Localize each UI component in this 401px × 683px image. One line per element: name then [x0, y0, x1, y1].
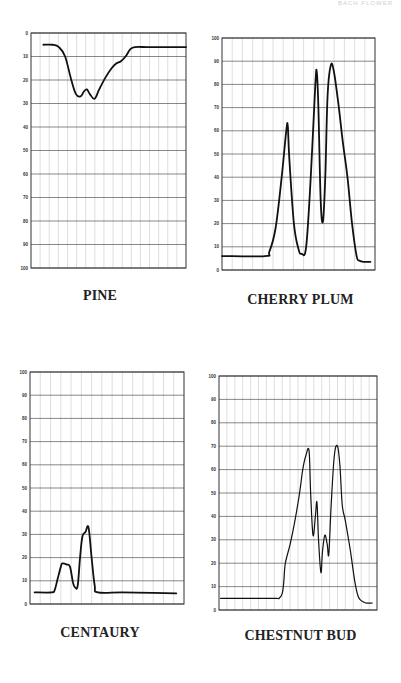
y-tick-label: 80 — [214, 82, 220, 87]
chart-title-cherry-plum: CHERRY PLUM — [200, 292, 401, 308]
y-tick-label: 90 — [23, 242, 29, 247]
y-tick-label: 40 — [22, 509, 28, 514]
y-tick-label: 60 — [211, 467, 217, 472]
y-tick-label: 70 — [211, 444, 217, 449]
data-line — [222, 64, 370, 262]
y-tick-label: 100 — [208, 374, 216, 379]
y-tick-label: 60 — [22, 462, 28, 467]
y-tick-label: 10 — [211, 584, 217, 589]
y-tick-label: 10 — [23, 54, 29, 59]
y-tick-label: 70 — [214, 105, 220, 110]
y-tick-label: 10 — [214, 244, 220, 249]
y-tick-label: 100 — [20, 266, 28, 271]
y-tick-label: 40 — [23, 125, 29, 130]
y-tick-label: 20 — [22, 555, 28, 560]
y-tick-label: 0 — [24, 602, 27, 607]
y-tick-label: 50 — [211, 491, 217, 496]
chart-title-pine: PINE — [0, 288, 200, 304]
y-tick-label: 0 — [213, 608, 216, 613]
y-tick-label: 90 — [22, 393, 28, 398]
data-line — [35, 526, 177, 593]
y-tick-label: 100 — [19, 370, 27, 375]
y-tick-label: 60 — [214, 128, 220, 133]
chart-chestnut-bud: 0102030405060708090100 — [200, 340, 401, 620]
y-tick-label: 100 — [211, 36, 219, 41]
y-tick-label: 90 — [211, 397, 217, 402]
y-tick-label: 50 — [214, 152, 220, 157]
chart-title-centaury: CENTAURY — [0, 625, 200, 641]
y-tick-label: 70 — [23, 195, 29, 200]
y-tick-label: 20 — [211, 561, 217, 566]
y-tick-label: 40 — [214, 175, 220, 180]
y-tick-label: 0 — [25, 31, 28, 36]
y-tick-label: 80 — [211, 420, 217, 425]
chart-panel-centaury: 0102030405060708090100 CENTAURY — [0, 340, 200, 670]
y-tick-label: 60 — [23, 172, 29, 177]
y-tick-label: 30 — [22, 532, 28, 537]
chart-pine: 0102030405060708090100 — [0, 0, 200, 280]
y-tick-label: 30 — [23, 101, 29, 106]
y-tick-label: 70 — [22, 439, 28, 444]
data-line — [221, 445, 373, 603]
chart-panel-chestnut-bud: 0102030405060708090100 CHESTNUT BUD — [200, 340, 401, 670]
chart-panel-pine: 0102030405060708090100 PINE — [0, 0, 200, 320]
data-line — [43, 45, 186, 99]
y-tick-label: 30 — [211, 537, 217, 542]
y-tick-label: 80 — [22, 416, 28, 421]
y-tick-label: 50 — [22, 486, 28, 491]
y-tick-label: 0 — [216, 268, 219, 273]
y-tick-label: 20 — [214, 221, 220, 226]
chart-title-chestnut-bud: CHESTNUT BUD — [200, 628, 401, 644]
chart-panel-cherry-plum: 0102030405060708090100 CHERRY PLUM — [200, 0, 401, 320]
y-tick-label: 40 — [211, 514, 217, 519]
y-tick-label: 80 — [23, 219, 29, 224]
y-tick-label: 10 — [22, 578, 28, 583]
y-tick-label: 50 — [23, 148, 29, 153]
y-tick-label: 90 — [214, 59, 220, 64]
chart-centaury: 0102030405060708090100 — [0, 340, 200, 620]
y-tick-label: 30 — [214, 198, 220, 203]
y-tick-label: 20 — [23, 78, 29, 83]
chart-cherry-plum: 0102030405060708090100 — [200, 0, 401, 280]
